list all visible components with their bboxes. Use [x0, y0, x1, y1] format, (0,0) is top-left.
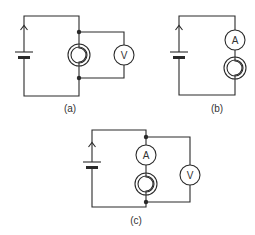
svg-text:V: V [121, 50, 128, 61]
lamp-icon [68, 44, 90, 66]
svg-text:V: V [187, 170, 194, 181]
voltmeter-icon: V [114, 45, 134, 65]
caption-b: (b) [211, 103, 223, 114]
wire [24, 16, 79, 52]
voltmeter-icon: V [180, 165, 200, 185]
wire [79, 32, 124, 45]
svg-text:A: A [232, 35, 239, 46]
ammeter-icon: A [225, 30, 245, 50]
circuit-a: V (a) [15, 16, 134, 114]
wire [79, 65, 124, 78]
ammeter-icon: A [136, 145, 156, 165]
battery-icon [15, 52, 33, 58]
caption-c: (c) [130, 215, 142, 226]
circuit-c: A V (c) [83, 130, 200, 226]
battery-icon [83, 162, 101, 168]
svg-text:A: A [143, 150, 150, 161]
lamp-icon [224, 57, 246, 79]
lamp-icon [135, 173, 157, 195]
battery-icon [170, 52, 188, 58]
circuit-b: A (b) [170, 16, 246, 114]
caption-a: (a) [64, 103, 76, 114]
circuit-diagrams: V (a) A (b) [0, 0, 255, 235]
